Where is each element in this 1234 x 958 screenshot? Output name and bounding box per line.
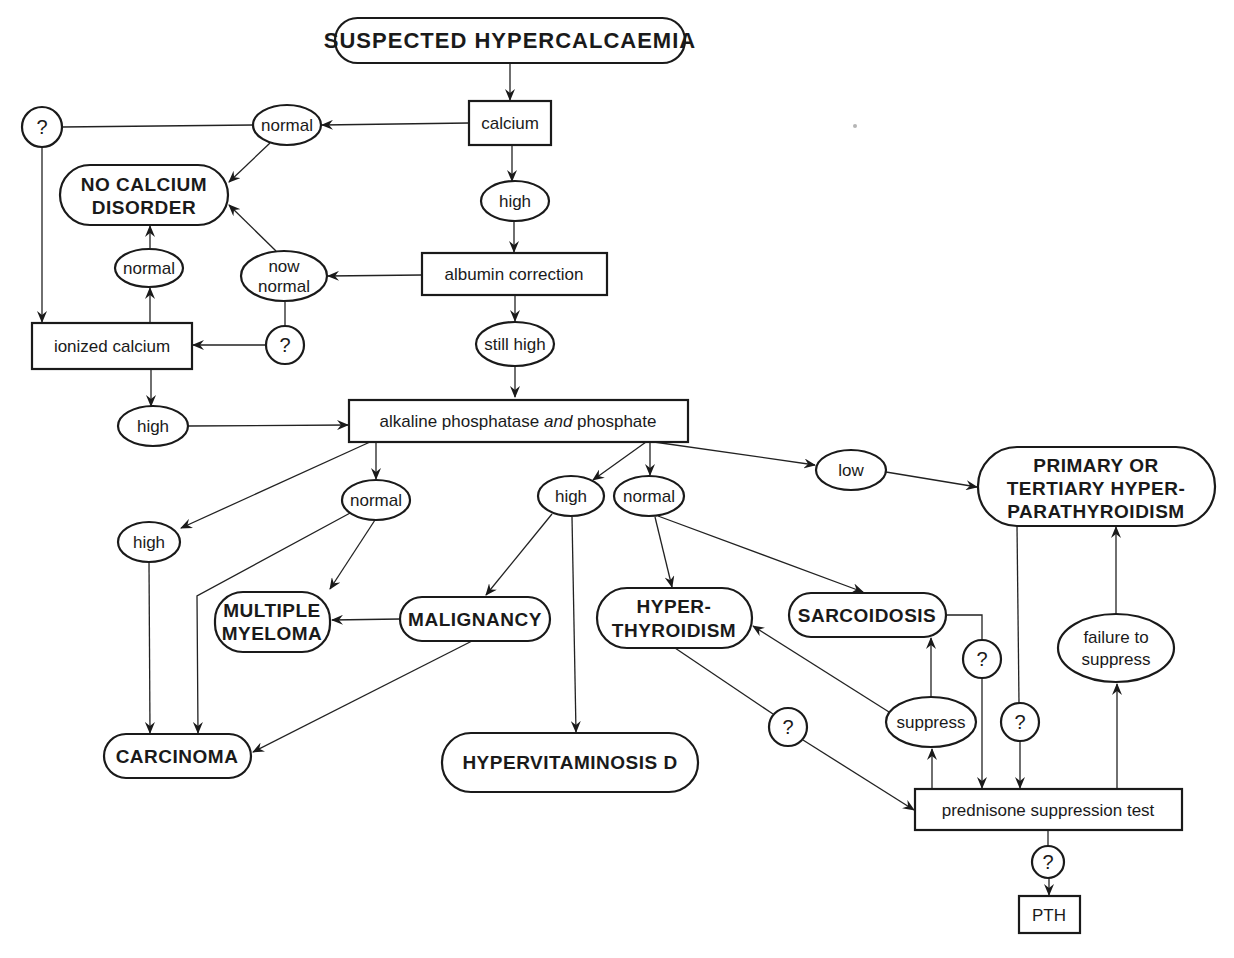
node-label: high xyxy=(499,192,531,211)
node-question-hyperthyroid[interactable]: ? xyxy=(769,708,807,746)
node-label: calcium xyxy=(481,114,539,133)
edge-normal-sarcoid xyxy=(658,516,863,592)
node-label: prednisone suppression test xyxy=(942,801,1155,820)
node-result-normal-calcium[interactable]: normal xyxy=(253,105,321,145)
node-label: high xyxy=(137,417,169,436)
node-label: SUSPECTED HYPERCALCAEMIA xyxy=(324,28,696,53)
node-result-low-phosphate[interactable]: low xyxy=(816,450,886,490)
edge-high-carcinoma xyxy=(149,562,150,733)
edge-alk-low xyxy=(654,442,815,465)
question-mark-icon: ? xyxy=(782,716,793,738)
edge-hyperthyroid-q xyxy=(675,648,773,714)
node-multiple-myeloma[interactable]: MULTIPLE MYELOMA xyxy=(215,592,330,652)
node-label-line1: now xyxy=(268,257,300,276)
node-label-line1: HYPER- xyxy=(637,596,712,617)
edge-now-normal-no-disorder xyxy=(229,205,276,251)
node-label: low xyxy=(838,461,864,480)
node-label: PTH xyxy=(1032,906,1066,925)
node-question-now-normal[interactable]: ? xyxy=(266,326,304,364)
node-carcinoma[interactable]: CARCINOMA xyxy=(104,734,251,778)
question-mark-icon: ? xyxy=(1042,851,1053,873)
node-label-line2: normal xyxy=(258,277,310,296)
node-label: MALIGNANCY xyxy=(408,609,542,630)
node-primary-tertiary-hyperparathyroidism[interactable]: PRIMARY OR TERTIARY HYPER- PARATHYROIDIS… xyxy=(978,447,1215,526)
question-mark-icon: ? xyxy=(36,116,47,138)
node-sarcoidosis[interactable]: SARCOIDOSIS xyxy=(789,593,946,637)
node-label: high xyxy=(133,533,165,552)
node-label: high xyxy=(555,487,587,506)
edge-albumin-now-normal xyxy=(328,275,422,276)
node-hyperthyroidism[interactable]: HYPER- THYROIDISM xyxy=(597,588,752,648)
node-result-high-ionized[interactable]: high xyxy=(118,406,188,446)
node-no-calcium-disorder[interactable]: NO CALCIUM DISORDER xyxy=(60,165,228,225)
node-result-high-phosphate[interactable]: high xyxy=(538,476,604,516)
node-suspected-hypercalcaemia[interactable]: SUSPECTED HYPERCALCAEMIA xyxy=(324,18,696,63)
node-malignancy[interactable]: MALIGNANCY xyxy=(400,597,550,641)
question-mark-icon: ? xyxy=(976,648,987,670)
node-label-line1: NO CALCIUM xyxy=(81,174,207,195)
question-mark-icon: ? xyxy=(1014,711,1025,733)
node-question-primary[interactable]: ? xyxy=(1001,703,1039,741)
node-result-high-alk-phos[interactable]: high xyxy=(118,522,180,562)
node-prednisone-suppression-test[interactable]: prednisone suppression test xyxy=(915,789,1182,830)
node-calcium-test[interactable]: calcium xyxy=(469,101,551,145)
edge-q-prednisone xyxy=(803,740,914,810)
node-label: normal xyxy=(623,487,675,506)
node-label-line1: MULTIPLE xyxy=(223,600,321,621)
node-label: HYPERVITAMINOSIS D xyxy=(462,752,677,773)
node-result-normal-alk-phos[interactable]: normal xyxy=(342,480,410,520)
edge-suppress-hyperthyroid xyxy=(753,626,889,712)
node-alkaline-phosphatase-and-phosphate[interactable]: alkaline phosphatase and phosphate xyxy=(349,400,688,442)
node-label-line3: PARATHYROIDISM xyxy=(1007,501,1184,522)
node-label: still high xyxy=(484,335,545,354)
node-question-sarcoidosis[interactable]: ? xyxy=(963,640,1001,678)
edge-malignancy-carcinoma xyxy=(253,641,472,752)
node-pth[interactable]: PTH xyxy=(1019,896,1080,933)
node-label-line2: suppress xyxy=(1082,650,1151,669)
node-result-now-normal[interactable]: now normal xyxy=(241,251,327,301)
edge-alk-high-left xyxy=(181,442,370,528)
node-hypervitaminosis-d[interactable]: HYPERVITAMINOSIS D xyxy=(442,733,698,792)
node-ionized-calcium[interactable]: ionized calcium xyxy=(32,323,192,369)
edge-high-alk xyxy=(188,425,348,426)
edge-sarcoid-q xyxy=(946,615,982,640)
node-question-pth[interactable]: ? xyxy=(1032,846,1064,878)
node-label: CARCINOMA xyxy=(116,746,239,767)
node-label-line2: THYROIDISM xyxy=(612,620,736,641)
node-label: SARCOIDOSIS xyxy=(798,605,937,626)
node-question-top-left[interactable]: ? xyxy=(22,107,62,147)
edge-calcium-normal xyxy=(322,123,469,125)
node-label-line2: MYELOMA xyxy=(222,623,323,644)
edge-normal-hyperthyroid xyxy=(655,517,672,587)
node-label: ionized calcium xyxy=(54,337,170,356)
node-label: suppress xyxy=(897,713,966,732)
node-result-failure-to-suppress[interactable]: failure to suppress xyxy=(1058,614,1174,682)
edge-normal-q xyxy=(62,125,253,127)
edge-normal-no-disorder xyxy=(229,143,270,182)
node-label-line2: TERTIARY HYPER- xyxy=(1007,478,1186,499)
hypercalcaemia-flowchart: SUSPECTED HYPERCALCAEMIA calcium normal … xyxy=(0,0,1234,958)
node-result-normal-ionized[interactable]: normal xyxy=(115,249,183,287)
node-result-high-calcium[interactable]: high xyxy=(481,181,549,221)
node-label: normal xyxy=(350,491,402,510)
scan-speck xyxy=(853,124,857,128)
node-label: albumin correction xyxy=(445,265,584,284)
node-label: normal xyxy=(261,116,313,135)
edge-low-primary xyxy=(886,472,977,487)
node-result-normal-phosphate[interactable]: normal xyxy=(614,476,684,516)
edge-high-malignancy xyxy=(486,514,552,595)
node-label-line1: failure to xyxy=(1083,628,1148,647)
node-albumin-correction[interactable]: albumin correction xyxy=(422,253,607,295)
node-label-line2: DISORDER xyxy=(92,197,196,218)
edge-high-hypervitd xyxy=(572,517,576,732)
edge-normal-myeloma xyxy=(330,520,375,589)
edge-primary-q xyxy=(1017,526,1019,703)
node-result-still-high[interactable]: still high xyxy=(476,322,554,366)
node-label: normal xyxy=(123,259,175,278)
edge-malignancy-myeloma xyxy=(332,619,400,620)
node-result-suppress[interactable]: suppress xyxy=(886,697,976,747)
node-label: alkaline phosphatase and phosphate xyxy=(380,412,657,431)
nodes: SUSPECTED HYPERCALCAEMIA calcium normal … xyxy=(22,18,1215,933)
node-label-line1: PRIMARY OR xyxy=(1033,455,1158,476)
question-mark-icon: ? xyxy=(279,334,290,356)
